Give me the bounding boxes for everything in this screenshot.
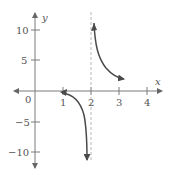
curve-right-branch <box>94 23 124 79</box>
x-axis-label: x <box>155 76 161 87</box>
x-axis <box>14 87 162 95</box>
origin-label: 0 <box>25 94 31 105</box>
x-tick-label: 1 <box>60 97 66 108</box>
x-tick-label: 2 <box>88 97 94 108</box>
y-tick-label: 5 <box>21 55 27 66</box>
y-tick-label: −10 <box>8 147 29 158</box>
y-tick-label: −5 <box>15 117 30 128</box>
y-tick-label: 10 <box>16 25 29 36</box>
y-axis-label: y <box>41 12 48 23</box>
x-tick-label: 3 <box>116 97 122 108</box>
arrowhead-icon <box>91 23 97 31</box>
function-graph: y x 0 1 2 3 4 10 5 −5 −10 <box>0 0 172 175</box>
x-tick-label: 4 <box>144 97 150 108</box>
